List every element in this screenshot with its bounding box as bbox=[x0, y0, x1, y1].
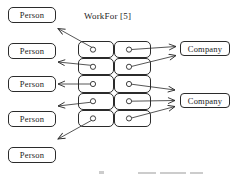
company-arrows bbox=[130, 47, 176, 119]
arrow-row1-person1 bbox=[58, 29, 93, 49]
person-node-4: Person bbox=[8, 111, 56, 127]
port-circle-r5-left bbox=[90, 116, 95, 121]
arrow-row2-company1 bbox=[130, 56, 176, 67]
arrow-row4-person4 bbox=[58, 102, 93, 106]
port-circle-r4-left bbox=[90, 99, 95, 104]
port-circle-r3-right bbox=[126, 81, 131, 86]
arrow-row5-company2 bbox=[130, 107, 175, 119]
port-circle-r1-right bbox=[126, 47, 131, 52]
person-node-3: Person bbox=[8, 76, 56, 92]
port-circle-r3-left bbox=[90, 81, 95, 86]
port-circle-r1-left bbox=[90, 47, 95, 52]
port-circle-r2-left bbox=[90, 64, 95, 69]
person-arrows bbox=[58, 29, 94, 140]
company-node-2: Company bbox=[180, 93, 230, 108]
port-circles bbox=[90, 47, 131, 121]
person-node-5: Person bbox=[8, 147, 56, 163]
arrow-row5-person5 bbox=[58, 119, 94, 139]
arrow-row4-company2 bbox=[130, 101, 175, 102]
arrow-row3-company2 bbox=[130, 84, 175, 90]
relation-label: WorkFor [5] bbox=[84, 11, 131, 21]
person-node-1: Person bbox=[8, 7, 56, 23]
arrow-row2-person2 bbox=[58, 62, 93, 66]
diagram-canvas: WorkFor [5] Person Person Person Person … bbox=[0, 0, 236, 174]
company-node-1: Company bbox=[180, 41, 230, 56]
arrow-row1-company1 bbox=[130, 47, 176, 50]
port-circle-r5-right bbox=[126, 116, 131, 121]
person-node-2: Person bbox=[8, 43, 56, 59]
port-circle-r4-right bbox=[126, 99, 131, 104]
port-circle-r2-right bbox=[126, 64, 131, 69]
